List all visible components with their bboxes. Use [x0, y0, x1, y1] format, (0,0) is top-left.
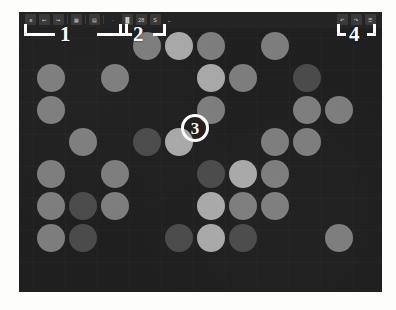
callout-1-label: 1: [60, 24, 71, 45]
screenshot-stage: ≡ ↩ ↪ ▦ ▤ · ▐▌ 28 S ⌄ ↶ ↷ ☰: [0, 0, 396, 310]
callout-4-bracket-left: [337, 24, 346, 36]
board-tile[interactable]: [261, 160, 289, 188]
separator-2: [85, 15, 86, 24]
board-tile[interactable]: [197, 32, 225, 60]
board-tile[interactable]: [229, 64, 257, 92]
separator-3: [103, 15, 104, 24]
board-tile[interactable]: [229, 160, 257, 188]
board-tile[interactable]: [101, 64, 129, 92]
callout-1-bracket-left: [24, 24, 55, 36]
board-tile[interactable]: [165, 32, 193, 60]
board-tile[interactable]: [69, 192, 97, 220]
board-tile[interactable]: [197, 160, 225, 188]
callout-3-label: 3: [181, 114, 209, 142]
board-tile[interactable]: [133, 128, 161, 156]
game-board[interactable]: [19, 28, 382, 292]
board-tile[interactable]: [101, 160, 129, 188]
callout-2-bracket-left: [119, 24, 132, 36]
board-tile[interactable]: [37, 96, 65, 124]
board-tile[interactable]: [37, 160, 65, 188]
board-tile[interactable]: [37, 64, 65, 92]
board-tile[interactable]: [261, 192, 289, 220]
callout-4-label: 4: [349, 24, 360, 45]
toolbar: ≡ ↩ ↪ ▦ ▤ · ▐▌ 28 S ⌄ ↶ ↷ ☰: [19, 12, 382, 28]
board-tile[interactable]: [325, 224, 353, 252]
board-tile[interactable]: [197, 64, 225, 92]
board-tile[interactable]: [261, 128, 289, 156]
board-tile[interactable]: [69, 128, 97, 156]
board-tile[interactable]: [293, 128, 321, 156]
board-tile[interactable]: [37, 192, 65, 220]
grid-icon[interactable]: ▦: [71, 14, 82, 25]
board-tile[interactable]: [229, 192, 257, 220]
board-tile[interactable]: [69, 224, 97, 252]
application-window: ≡ ↩ ↪ ▦ ▤ · ▐▌ 28 S ⌄ ↶ ↷ ☰: [19, 12, 382, 292]
board-tile[interactable]: [293, 64, 321, 92]
board-tile[interactable]: [229, 224, 257, 252]
callout-2-label: 2: [133, 24, 144, 45]
board-tile[interactable]: [197, 192, 225, 220]
board-tile[interactable]: [293, 96, 321, 124]
board-tile[interactable]: [325, 96, 353, 124]
board-tile[interactable]: [197, 224, 225, 252]
board-tile[interactable]: [37, 224, 65, 252]
callout-4-bracket-right: [367, 24, 376, 36]
callout-2-bracket-right: [153, 24, 166, 36]
board-tile[interactable]: [165, 224, 193, 252]
board-tile[interactable]: [101, 192, 129, 220]
board-tile[interactable]: [261, 32, 289, 60]
